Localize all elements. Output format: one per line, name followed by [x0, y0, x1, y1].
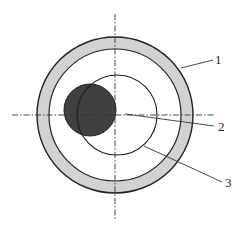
cross-section-diagram: 1 2 3: [0, 0, 243, 231]
label-1: 1: [215, 52, 222, 67]
dark-solid-circle: [64, 84, 116, 136]
leader-line-1: [181, 60, 213, 68]
label-2: 2: [218, 119, 225, 134]
label-3: 3: [225, 175, 232, 190]
leader-line-2: [125, 114, 214, 126]
